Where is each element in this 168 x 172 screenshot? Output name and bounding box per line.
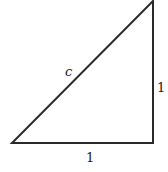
vertical-leg-label: 1 xyxy=(157,80,165,95)
hypotenuse-label: c xyxy=(65,64,73,79)
right-triangle-diagram: c 1 1 xyxy=(0,0,168,172)
horizontal-leg-label: 1 xyxy=(86,150,94,165)
triangle-shape xyxy=(12,1,153,143)
